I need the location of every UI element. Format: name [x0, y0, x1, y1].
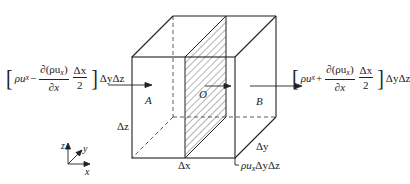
axis-z-label: z [61, 141, 65, 151]
dy-label: Δy [256, 141, 269, 152]
left-derivative: ∂(ρux) ∂x [39, 63, 68, 93]
point-a-label: A [145, 95, 152, 106]
point-b-label: B [256, 96, 263, 107]
left-bracket-open: [ [6, 66, 13, 89]
center-flux-leader [235, 158, 239, 165]
center-flux-label: ρuxΔyΔz [241, 160, 280, 173]
hatched-section-plane [185, 16, 226, 158]
right-half-dx: Δx 2 [359, 64, 374, 91]
dz-label: Δz [117, 121, 129, 132]
left-bracket-close: ] [91, 66, 98, 89]
left-half-dx: Δx 2 [73, 64, 88, 91]
dx-label: Δx [178, 160, 191, 171]
right-flux-expression: [ ρux + ∂(ρux) ∂x Δx 2 ] ΔyΔz [290, 63, 410, 93]
point-o-label: O [199, 89, 207, 100]
right-derivative: ∂(ρux) ∂x [325, 63, 354, 93]
axis-y-label: y [83, 144, 87, 154]
right-bracket-close: ] [377, 66, 384, 89]
axis-x-label: x [85, 167, 89, 177]
right-bracket-open: [ [292, 66, 299, 89]
left-flux-expression: [ ρux − ∂(ρux) ∂x Δx 2 ] ΔyΔz [4, 63, 124, 93]
